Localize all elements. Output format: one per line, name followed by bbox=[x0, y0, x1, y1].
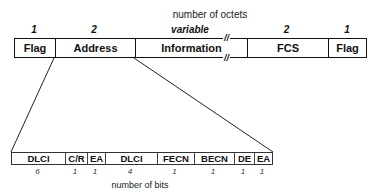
bit-cr: C/R bbox=[65, 153, 87, 164]
bits-de: 1 bbox=[233, 167, 253, 176]
bit-ea-1: EA bbox=[87, 153, 105, 164]
bits-ea-2: 1 bbox=[253, 167, 271, 176]
bits-ea-1: 1 bbox=[86, 167, 104, 176]
bit-dlci-high: DLCI bbox=[12, 153, 65, 164]
bit-becn: BECN bbox=[194, 153, 234, 164]
bits-fecn: 1 bbox=[156, 167, 193, 176]
bits-dlci-high: 6 bbox=[11, 167, 64, 176]
bit-de: DE bbox=[234, 153, 254, 164]
bit-dlci-low: DLCI bbox=[105, 153, 157, 164]
bit-fecn: FECN bbox=[157, 153, 194, 164]
bits-cr: 1 bbox=[64, 167, 86, 176]
bits-becn: 1 bbox=[193, 167, 233, 176]
bits-caption: number of bits bbox=[95, 180, 185, 190]
address-field-bits: DLCI C/R EA DLCI FECN BECN DE EA bbox=[11, 152, 273, 165]
bits-dlci-low: 4 bbox=[104, 167, 156, 176]
bit-ea-2: EA bbox=[254, 153, 272, 164]
